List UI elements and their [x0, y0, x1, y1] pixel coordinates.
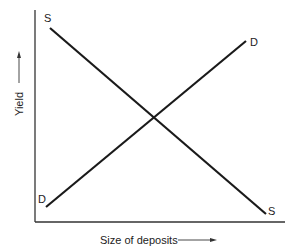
demand-curve [46, 41, 246, 207]
supply-curve [50, 28, 266, 214]
demand-label-end: D [250, 36, 258, 48]
x-axis-label: Size of deposits [100, 234, 178, 246]
supply-label-start: S [44, 12, 51, 24]
supply-label-end: S [268, 205, 275, 217]
y-axis-label: Yield [13, 92, 25, 116]
demand-label-start: D [38, 193, 46, 205]
y-axis-arrow-icon [17, 51, 21, 58]
x-axis-arrow-icon [210, 238, 217, 242]
supply-demand-diagram: S S D D Yield Size of deposits [0, 0, 298, 251]
